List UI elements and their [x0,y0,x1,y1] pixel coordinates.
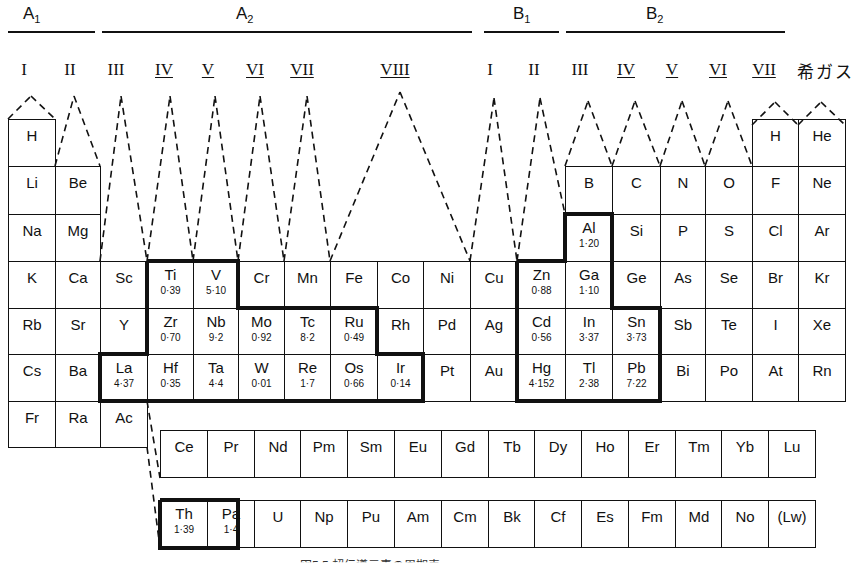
element-symbol: Ca [56,270,100,286]
element-symbol: Os [331,360,377,376]
group-header-line [566,31,785,33]
element-symbol: B [566,175,612,191]
element-cell: Xe [798,308,846,355]
periodic-table-figure: A1A2B1B2 IIIIIIIVVVIVIIVIIIIIIIIIIVVVIVI… [0,0,859,570]
element-cell: Mo0·92 [238,308,285,355]
critical-temperature: 4·152 [518,378,565,389]
element-cell: Th1·39 [160,500,208,548]
element-cell: Es [581,500,629,548]
element-symbol: Cm [442,509,488,525]
element-cell: Rn [798,354,846,402]
element-symbol: Ho [582,439,628,455]
element-cell: Cs [8,354,56,402]
group-numeral: VII [744,60,784,80]
element-cell: Tb [488,430,536,478]
element-cell: W0·01 [238,354,285,402]
critical-temperature: 3·73 [613,332,660,343]
critical-temperature: 5·10 [194,285,238,296]
group-header-label: A2 [236,4,253,25]
element-cell: Pb7·22 [612,354,661,402]
element-symbol: Cl [753,223,798,239]
group-header-line [484,31,559,33]
group-numeral: V [652,60,692,80]
element-symbol: Gd [442,439,488,455]
element-symbol: Er [629,439,675,455]
element-cell: La4·37 [100,354,148,402]
element-cell: Cf [534,500,582,548]
element-symbol: Au [471,363,517,379]
element-symbol: At [753,363,798,379]
element-cell: C [612,166,661,215]
group-numeral: V [188,60,228,80]
element-cell: (Lw) [768,500,816,548]
critical-temperature: 1·4 [208,524,254,535]
element-symbol: S [706,223,752,239]
element-symbol: He [799,128,845,144]
element-symbol: Ga [566,267,612,283]
element-cell: Pd [423,308,471,355]
element-cell: Ru0·49 [330,308,378,355]
group-numeral: II [514,60,554,80]
element-symbol: Mn [285,270,330,286]
element-cell: K [8,261,56,309]
element-symbol: Np [301,509,347,525]
element-cell: Ti0·39 [147,261,194,309]
element-cell: B [565,166,613,215]
group-header-line [102,31,472,33]
element-cell: Sn3·73 [612,308,661,355]
element-cell: Ar [798,214,846,262]
element-cell: Tc8·2 [284,308,331,355]
element-cell: Rh [377,308,424,355]
element-symbol: Ra [56,410,100,426]
element-cell: Zr0·70 [147,308,194,355]
element-symbol: Fm [629,509,675,525]
element-cell: Re1·7 [284,354,331,402]
element-symbol: Es [582,509,628,525]
element-symbol: Re [285,360,330,376]
critical-temperature: 0·66 [331,378,377,389]
element-cell: Cd0·56 [517,308,566,355]
element-cell: At [752,354,799,402]
element-cell: Nb9·2 [193,308,239,355]
element-symbol: Cu [471,270,517,286]
element-symbol: Hf [148,360,193,376]
group-numeral: IV [606,60,646,80]
element-symbol: Eu [395,439,441,455]
critical-temperature: 0·39 [148,285,193,296]
element-symbol: Sb [661,317,705,333]
element-symbol: Sm [348,439,394,455]
element-cell: Al1·20 [565,214,613,262]
critical-temperature: 9·2 [194,332,238,343]
critical-temperature: 0·56 [518,332,565,343]
element-symbol: F [753,175,798,191]
element-cell: Cr [238,261,285,309]
critical-temperature: 0·70 [148,332,193,343]
element-cell: Ba [55,354,101,402]
element-cell: Pm [300,430,348,478]
element-symbol: Be [56,175,100,191]
element-symbol: Cf [535,509,581,525]
element-cell: Er [628,430,676,478]
element-cell: Md [675,500,723,548]
element-symbol: Xe [799,317,845,333]
element-symbol: La [101,360,147,376]
element-cell: Eu [394,430,442,478]
element-symbol: Pd [424,317,470,333]
element-symbol: Ni [424,270,470,286]
element-cell: Mg [55,214,101,262]
group-header-label: B2 [646,4,663,25]
element-cell: Hf0·35 [147,354,194,402]
element-cell: Ge [612,261,661,309]
element-symbol: Pt [424,363,470,379]
element-cell: Fm [628,500,676,548]
element-symbol: Ba [56,363,100,379]
element-cell: Os0·66 [330,354,378,402]
element-cell: Rb [8,308,56,355]
critical-temperature: 1·10 [566,285,612,296]
element-symbol: V [194,267,238,283]
critical-temperature: 0·88 [518,285,565,296]
element-cell: Li [8,166,56,215]
element-cell: Y [100,308,148,355]
element-cell: S [705,214,753,262]
element-cell: Nd [254,430,302,478]
